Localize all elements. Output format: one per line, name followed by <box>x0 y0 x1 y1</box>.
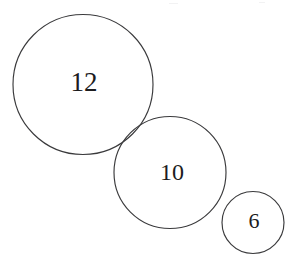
top-speck-left-artifact <box>169 3 178 4</box>
circles-diagram: 12 10 6 <box>0 0 291 256</box>
small-circle-label: 6 <box>249 208 260 233</box>
top-speck-right-artifact <box>259 2 265 3</box>
medium-circle-label: 10 <box>160 159 184 185</box>
circles-canvas: 12 10 6 <box>0 0 291 256</box>
large-circle-label: 12 <box>71 67 98 97</box>
